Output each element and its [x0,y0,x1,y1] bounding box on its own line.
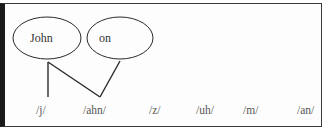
word-label-john: John [30,31,53,45]
word-label-on: on [99,31,111,45]
phoneme-z: /z/ [149,104,161,116]
phoneme-uh: /uh/ [196,104,215,116]
phoneme-ahn: /ahn/ [83,104,107,116]
connection-lines [48,61,120,97]
phoneme-m: /m/ [243,104,259,116]
word-ellipse-on [87,17,153,59]
word-node-on: on [87,17,153,59]
connector-on-ahn [100,61,120,97]
connector-john-ahn [48,62,100,97]
word-segmentation-diagram: John on /j/ /ahn/ /z/ /uh/ /m/ /an/ [0,0,329,132]
phoneme-an: /an/ [297,104,315,116]
word-node-john: John [13,17,81,59]
phoneme-j: /j/ [36,104,46,117]
phoneme-row: /j/ /ahn/ /z/ /uh/ /m/ /an/ [36,104,315,117]
